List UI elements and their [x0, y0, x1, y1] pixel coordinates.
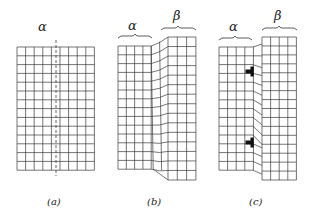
alpha-label-b: α — [128, 18, 137, 33]
dislocation-icon — [246, 138, 253, 147]
beta-label-b: β — [172, 8, 181, 23]
panel-c: α β (c) — [219, 8, 297, 207]
alpha-label-c: α — [229, 19, 238, 34]
lattice-grid-c — [219, 37, 296, 180]
alpha-brace-c — [219, 36, 252, 40]
panel-a: α (a) — [17, 19, 94, 207]
lattice-grid-b — [118, 37, 196, 180]
beta-brace-c — [262, 26, 297, 30]
alpha-label-a: α — [38, 19, 47, 34]
panel-label-b: (b) — [147, 196, 161, 207]
panel-label-c: (c) — [249, 196, 263, 207]
alpha-brace-b — [118, 34, 152, 38]
figure: α (a) α β (b) α β (c) — [0, 0, 311, 218]
dislocation-icon — [246, 67, 253, 76]
panel-label-a: (a) — [47, 196, 61, 207]
panel-b: α β (b) — [118, 8, 196, 207]
beta-label-c: β — [273, 8, 282, 23]
beta-brace-b — [161, 26, 196, 30]
